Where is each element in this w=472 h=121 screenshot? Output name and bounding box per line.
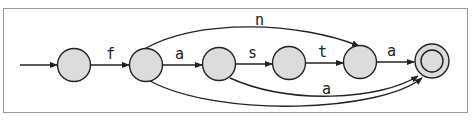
state-q3 <box>273 47 306 80</box>
edge-skip <box>150 78 422 106</box>
fsa-diagram: f a s t a n a <box>0 0 472 121</box>
state-q0 <box>58 49 91 82</box>
state-q4 <box>344 46 377 79</box>
label-n: n <box>255 11 264 29</box>
label-a2: a <box>387 42 396 60</box>
state-q2 <box>203 48 236 81</box>
state-q1 <box>130 49 163 82</box>
label-a1: a <box>175 45 184 63</box>
label-f: f <box>106 45 115 63</box>
accepting-inner-ring <box>421 50 443 72</box>
label-a3: a <box>322 80 331 98</box>
label-t: t <box>318 43 327 61</box>
label-s: s <box>248 44 257 62</box>
